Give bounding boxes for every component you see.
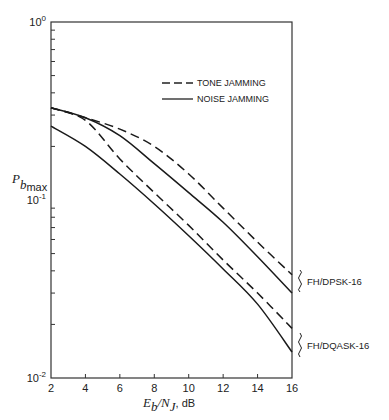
x-tick-label: 6 [117, 382, 123, 394]
series-line-fh-dpsk-16-noise [51, 108, 292, 293]
series-line-fh-dpsk-16-tone [51, 108, 292, 275]
brace-icon [299, 333, 302, 357]
x-tick-label: 2 [48, 382, 54, 394]
x-tick-label: 12 [217, 382, 229, 394]
x-axis-label: Eb/NJ, dB [142, 395, 195, 414]
annotation-dqask: FH/DQASK-16 [299, 333, 370, 357]
legend-label-tone: TONE JAMMING [197, 78, 266, 88]
x-tick-label: 8 [151, 382, 157, 394]
y-tick-label: 10-1 [27, 192, 47, 206]
annotation-label-dqask: FH/DQASK-16 [307, 340, 369, 351]
chart: 246810121416 10010-110-2 Pbmax Eb/NJ, dB… [0, 0, 389, 420]
plot-frame [51, 22, 292, 378]
x-tick-label: 10 [183, 382, 195, 394]
x-tick-label: 16 [286, 382, 298, 394]
y-tick-label: 10-2 [27, 370, 47, 384]
legend-label-noise: NOISE JAMMING [197, 94, 269, 104]
y-axis-label: Pbmax [11, 171, 48, 193]
annotation-dpsk: FH/DPSK-16 [299, 270, 362, 292]
y-tick-label: 100 [29, 14, 46, 28]
series-layer [51, 108, 292, 352]
legend: TONE JAMMING NOISE JAMMING [162, 78, 269, 104]
brace-icon [299, 270, 302, 292]
series-line-fh-dqask-16-tone [51, 108, 292, 329]
x-tick-label: 14 [251, 382, 263, 394]
y-tick-labels: 10010-110-2 [27, 14, 47, 384]
x-tick-label: 4 [82, 382, 88, 394]
annotation-label-dpsk: FH/DPSK-16 [307, 276, 362, 287]
x-ticks: 246810121416 [48, 374, 298, 394]
